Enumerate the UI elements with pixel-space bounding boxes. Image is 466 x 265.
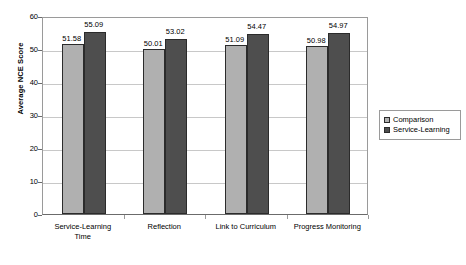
y-axis-tick-label: 0: [0, 211, 38, 219]
y-axis-tick-label: 20: [0, 145, 38, 153]
bar-value-label: 51.09: [215, 36, 255, 44]
legend: ComparisonService-Learning: [379, 110, 461, 140]
y-axis-tick-label: 50: [0, 46, 38, 54]
bar-value-label: 53.02: [155, 28, 195, 36]
bar-value-label: 54.47: [237, 23, 277, 31]
bar: [165, 39, 187, 214]
bar-value-label: 55.09: [74, 21, 114, 29]
bar: [143, 49, 165, 214]
legend-item: Service-Learning: [384, 125, 457, 135]
bar: [328, 33, 350, 214]
y-axis-tick-label: 40: [0, 79, 38, 87]
y-axis-tick-label: 10: [0, 178, 38, 186]
x-axis-category-label: Progress Monitoring: [272, 222, 382, 232]
bar-value-label: 50.98: [296, 37, 336, 45]
y-axis-tick-mark: [38, 215, 42, 216]
y-axis-tick-label: 60: [0, 13, 38, 21]
bar: [247, 34, 269, 214]
x-axis-tick-mark: [205, 215, 206, 219]
x-axis-tick-mark: [287, 215, 288, 219]
bar-value-label: 51.58: [52, 35, 92, 43]
plot-area: [42, 17, 368, 215]
x-axis-tick-mark: [368, 215, 369, 219]
legend-swatch-icon: [384, 117, 390, 123]
legend-item: Comparison: [384, 115, 457, 125]
bar: [84, 32, 106, 214]
bar: [306, 46, 328, 214]
bar: [62, 44, 84, 214]
bar-chart: Average NCE Score 0102030405060 51.5855.…: [0, 0, 466, 265]
bar-value-label: 54.97: [318, 22, 358, 30]
bar: [225, 45, 247, 214]
legend-swatch-icon: [384, 127, 390, 133]
y-axis-tick-label: 30: [0, 112, 38, 120]
legend-item-label: Comparison: [393, 116, 433, 124]
bar-value-label: 50.01: [133, 40, 173, 48]
legend-item-label: Service-Learning: [393, 126, 450, 134]
x-axis-tick-mark: [124, 215, 125, 219]
